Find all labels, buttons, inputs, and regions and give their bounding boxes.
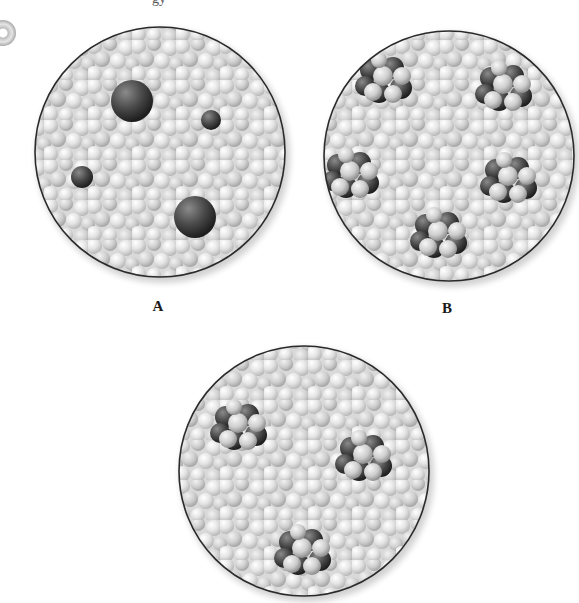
- solute-sphere: [111, 80, 153, 122]
- solute-sphere: [174, 196, 216, 238]
- panel-a: [30, 20, 290, 285]
- panel-b-label: B: [442, 300, 452, 317]
- solute-sphere: [201, 110, 221, 130]
- panel-b: [320, 25, 579, 290]
- panel-a-label: A: [153, 298, 164, 315]
- figure-canvas: [0, 0, 579, 603]
- solute-sphere: [71, 166, 93, 188]
- panel-c: [175, 340, 435, 603]
